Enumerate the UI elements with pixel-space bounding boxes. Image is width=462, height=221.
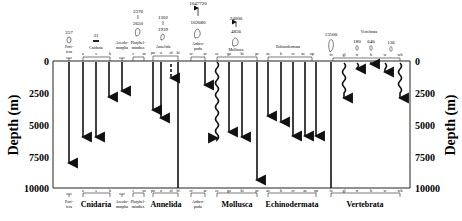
code: t — [132, 51, 134, 56]
vertebrata-name-top: Vertebrata — [361, 29, 378, 34]
porifera-count: 257 — [65, 30, 73, 35]
code: a — [82, 188, 84, 193]
left-y-axis: 0 2500 5000 7500 10000 Depth (m) — [6, 56, 49, 194]
y-tick-right-10000: 10000 — [415, 183, 440, 194]
code: as — [266, 188, 270, 193]
y-axis-label-left: Depth (m) — [6, 94, 22, 155]
code: po — [151, 50, 155, 55]
code: pr — [255, 188, 259, 193]
y-axis-label-right: Depth (m) — [443, 94, 459, 155]
code: s — [95, 188, 97, 193]
code: s — [95, 51, 97, 56]
platy-count-bottom: 2650 — [133, 21, 144, 26]
arthropoda-icon — [194, 29, 200, 38]
code: o — [160, 188, 162, 193]
top-labels: 257 Pori- fera 31 Cnidaria a s h Aceolo-… — [65, 1, 402, 61]
code: ol — [169, 50, 173, 55]
code: pr — [255, 51, 259, 56]
code: ar — [203, 51, 207, 56]
code: h — [109, 51, 111, 56]
code: as — [303, 188, 307, 193]
bottom-labels: Pori- fera a s h Cnidaria Aceolo- morpha… — [65, 188, 402, 209]
arrow-mollusca-ce-wavy — [216, 62, 219, 140]
y-tick-10000: 10000 — [24, 183, 49, 194]
code: t — [132, 188, 134, 193]
code: b — [370, 52, 372, 57]
y-tick-0: 0 — [44, 56, 49, 67]
mollusca-icon — [232, 38, 238, 46]
code: fs — [330, 52, 333, 57]
code: ce — [215, 51, 219, 56]
platy-icon — [135, 28, 140, 36]
cnidaria-icon — [93, 40, 99, 42]
code: ol — [169, 188, 173, 193]
code: wh — [398, 188, 403, 193]
code: cr — [291, 188, 295, 193]
depth-chart: 0 2500 5000 7500 10000 Depth (m) 0 2500 … — [0, 0, 462, 221]
y-tick-right-5000: 5000 — [415, 120, 435, 131]
bottom-echinodermata: Echinodermata — [266, 200, 319, 209]
code: op — [310, 51, 314, 56]
code: w — [384, 188, 387, 193]
arrow-vertebrata-gl-wavy — [343, 63, 346, 98]
code: gl — [342, 188, 346, 193]
vertebrata-rt-count: 180 — [353, 39, 361, 44]
code: h — [280, 188, 282, 193]
bottom-vertebrata: Vertebrata — [346, 200, 383, 209]
annelida-count-top: 1302 — [158, 15, 169, 20]
code: bi — [240, 51, 244, 56]
y-tick-7500: 7500 — [29, 152, 49, 163]
y-tick-right-7500: 7500 — [415, 152, 435, 163]
bottom-cnidaria: Cnidaria — [81, 200, 112, 209]
code: b — [370, 188, 372, 193]
code: hi — [176, 188, 180, 193]
code: gl — [342, 52, 346, 57]
code: cr — [189, 51, 193, 56]
plot-frame — [53, 61, 410, 188]
arrow-vertebrata-w-wavy — [385, 63, 387, 72]
annelida-icon — [161, 34, 165, 40]
annelida-count-bottom: 1939 — [158, 27, 169, 32]
y-tick-2500: 2500 — [29, 88, 49, 99]
echino-name: Echinodermata — [276, 44, 300, 49]
arthropoda-name-2: poda — [194, 46, 202, 51]
vertebrata-fs-count: 13500 — [325, 32, 338, 37]
code: nt — [142, 188, 146, 193]
cnidaria-name: Cnidaria — [89, 45, 103, 50]
code: ga — [227, 51, 231, 56]
bottom-platy-2: minthes — [132, 204, 145, 209]
code: cr — [189, 188, 193, 193]
code: o — [160, 50, 162, 55]
code: bi — [240, 188, 244, 193]
porifera-name-2: fera — [66, 49, 72, 54]
code: fs — [330, 188, 333, 193]
code: ar — [203, 188, 207, 193]
porifera-icon — [67, 37, 71, 43]
y-tick-right-2500: 2500 — [415, 88, 435, 99]
code: ce — [215, 188, 219, 193]
code: wh — [398, 52, 403, 57]
mollusca-count-bottom: 4856 — [231, 29, 242, 34]
mollusca-count-top: 24000 — [230, 16, 243, 21]
acoelo-name-2: morpha — [116, 45, 128, 50]
code: nt — [142, 51, 146, 56]
arrow-vertebrata-wh-wavy — [399, 63, 402, 98]
bottom-acoelo-2: morpha — [116, 204, 128, 209]
y-tick-right-0: 0 — [415, 56, 420, 67]
code: po — [151, 188, 155, 193]
code: rt — [356, 188, 359, 193]
depth-arrows — [69, 62, 402, 188]
arthropoda-count-top: 1047720 — [189, 1, 207, 6]
code: as — [266, 51, 270, 56]
code: cr — [291, 51, 295, 56]
bottom-annelida: Annelida — [150, 200, 181, 209]
code: w — [384, 52, 387, 57]
fish-icon — [329, 40, 334, 52]
cnidaria-count: 31 — [94, 33, 100, 38]
code: op — [314, 188, 318, 193]
code: a — [82, 51, 84, 56]
platy-name-2: minthes — [132, 45, 145, 50]
arthropoda-count-bottom: 102680 — [191, 20, 207, 25]
y-tick-5000: 5000 — [29, 120, 49, 131]
bottom-porifera-2: fera — [66, 204, 72, 209]
